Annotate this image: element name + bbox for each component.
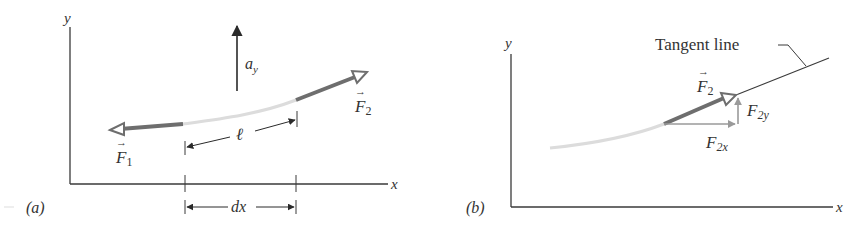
panel-a-label: (a) — [26, 199, 45, 217]
f2-label: F2 — [354, 97, 371, 118]
axes-a: y x — [62, 10, 398, 192]
acceleration-arrow: ay — [237, 26, 258, 91]
y-axis-label: y — [62, 10, 71, 26]
f2-vector-arrow: → — [355, 85, 366, 97]
string-segment — [183, 100, 296, 124]
acceleration-label: ay — [245, 55, 258, 75]
string-element-force-diagram: y x dx (a) ay → — [0, 0, 859, 235]
f2-vector-arrow: → — [698, 65, 709, 77]
f2x-label: F2x — [705, 133, 728, 154]
y-axis-label: y — [503, 35, 512, 51]
panel-b-label: (b) — [466, 199, 485, 217]
force-f2-vector: → F2 — [296, 71, 371, 118]
panel-a: y x dx (a) ay → — [4, 10, 398, 217]
f2-label: F2 — [696, 77, 713, 98]
length-label: ℓ — [236, 125, 243, 144]
panel-b: y x (b) Tangent line → F2 F2x — [466, 35, 843, 217]
x-axis-label: x — [390, 176, 398, 192]
length-dimension: ℓ — [185, 111, 297, 155]
string-curve — [550, 124, 664, 148]
force-f1-vector: → F1 — [110, 123, 183, 169]
f1-label: F1 — [115, 148, 132, 169]
tangent-line-label: Tangent line — [655, 35, 739, 54]
f1-vector-arrow: → — [116, 136, 127, 148]
f2y-label: F2y — [746, 101, 769, 122]
dx-label: dx — [231, 198, 246, 215]
x-axis-label: x — [835, 199, 843, 215]
f2-x-component: F2x — [664, 124, 735, 154]
tangent-leader — [778, 45, 806, 66]
f2-y-component: F2y — [738, 98, 769, 124]
tangent-line — [736, 58, 829, 95]
axes-b: y x — [503, 35, 843, 215]
force-f2-vector: → F2 — [664, 65, 736, 124]
dx-dimension: dx — [185, 198, 296, 215]
